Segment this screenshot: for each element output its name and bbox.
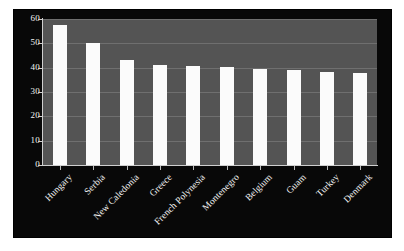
y-tick-label: 30 [14, 87, 40, 96]
bar-chart-figure: 0102030405060 HungarySerbiaNew Caledonia… [0, 0, 404, 251]
y-axis-tick-labels: 0102030405060 [12, 0, 40, 251]
y-tick-mark [38, 43, 43, 44]
y-tick-label: 60 [14, 14, 40, 23]
bar [53, 25, 67, 165]
bar [253, 69, 267, 165]
x-tick-mark [160, 166, 161, 170]
bar [153, 65, 167, 165]
x-tick-mark [227, 166, 228, 170]
y-tick-mark [38, 165, 43, 166]
y-tick-label: 40 [14, 63, 40, 72]
bar [220, 67, 234, 165]
x-tick-mark [193, 166, 194, 170]
x-tick-mark [127, 166, 128, 170]
x-tick-mark [60, 166, 61, 170]
bar [287, 70, 301, 165]
x-tick-mark [294, 166, 295, 170]
bar [86, 43, 100, 165]
x-tick-mark [327, 166, 328, 170]
bar [186, 66, 200, 165]
plot-area [43, 19, 377, 165]
bar [320, 72, 334, 165]
x-tick-mark [260, 166, 261, 170]
y-tick-mark [38, 92, 43, 93]
y-tick-label: 10 [14, 136, 40, 145]
y-tick-mark [38, 19, 43, 20]
y-tick-label: 0 [14, 160, 40, 169]
gridline [43, 19, 377, 20]
y-tick-mark [38, 68, 43, 69]
y-tick-label: 50 [14, 38, 40, 47]
y-tick-mark [38, 141, 43, 142]
bar [353, 73, 367, 165]
x-tick-mark [93, 166, 94, 170]
y-tick-label: 20 [14, 111, 40, 120]
x-tick-mark [360, 166, 361, 170]
bar [120, 60, 134, 165]
y-tick-mark [38, 116, 43, 117]
